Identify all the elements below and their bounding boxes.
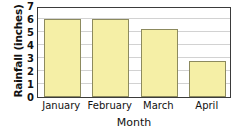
y-tick-label: 1 xyxy=(20,80,34,90)
bar xyxy=(189,61,226,97)
x-axis-tick-labels: JanuaryFebruaryMarchApril xyxy=(37,100,231,114)
y-tick-label: 6 xyxy=(20,15,34,25)
bar-series xyxy=(38,8,230,97)
y-tick-label: 7 xyxy=(20,2,34,12)
bar xyxy=(141,29,178,97)
bar xyxy=(44,19,81,97)
y-axis-tick-labels: 76543210 xyxy=(20,2,34,102)
y-tick-label: 4 xyxy=(20,41,34,51)
x-tick-label: January xyxy=(37,100,86,111)
rainfall-bar-chart: Rainfall (inches) 76543210 JanuaryFebrua… xyxy=(0,0,239,135)
x-tick-label: April xyxy=(183,100,232,111)
y-tick-label: 0 xyxy=(20,93,34,103)
x-axis-title: Month xyxy=(37,116,231,129)
x-tick-label: March xyxy=(134,100,183,111)
plot-area xyxy=(37,7,231,98)
bar xyxy=(92,19,129,97)
y-tick-label: 2 xyxy=(20,67,34,77)
x-tick-label: February xyxy=(86,100,135,111)
y-tick-label: 3 xyxy=(20,54,34,64)
y-tick-label: 5 xyxy=(20,28,34,38)
